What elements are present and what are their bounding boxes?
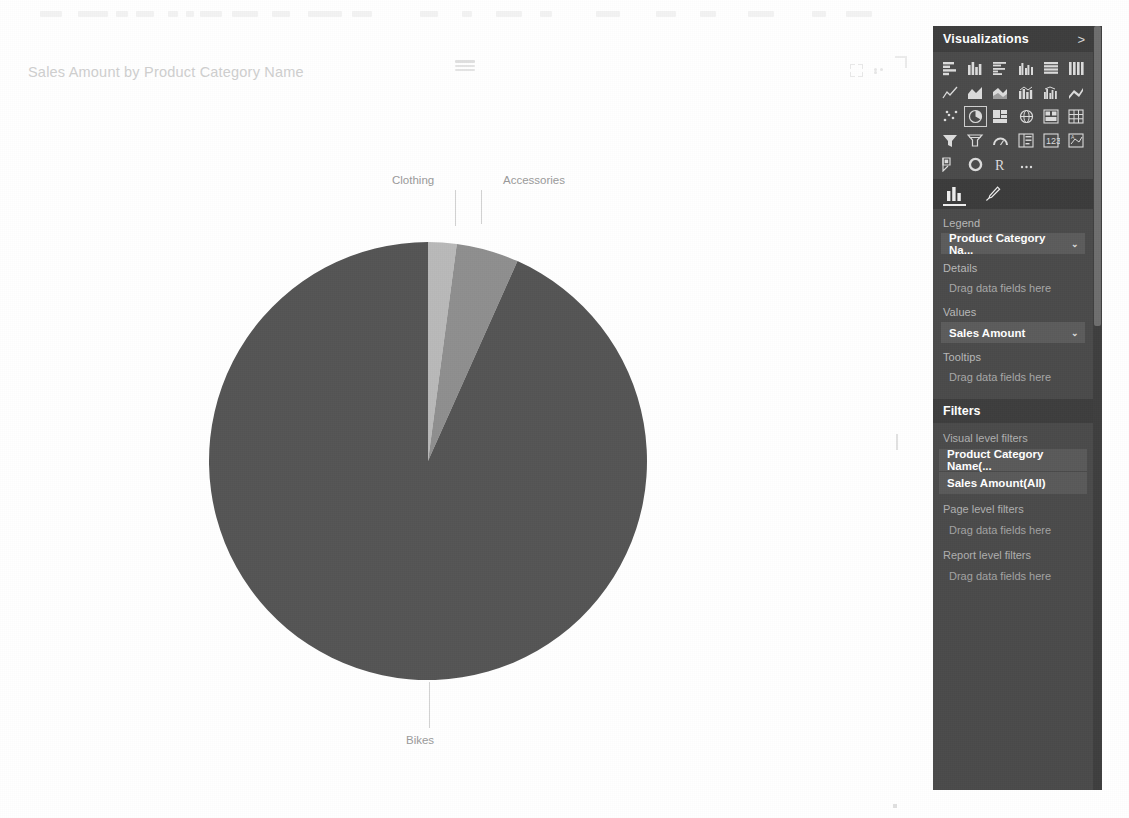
ribbon-chart-icon[interactable] <box>1065 82 1088 103</box>
area-chart-icon[interactable] <box>964 82 987 103</box>
visualizations-pane[interactable]: Visualizations > 123AR LegendProduct Cat… <box>933 26 1093 790</box>
gauge-icon[interactable] <box>964 130 987 151</box>
pie-label-accessories: Accessories <box>503 174 565 186</box>
stacked-area-chart-icon[interactable] <box>989 82 1012 103</box>
filter-group-label-report-level-filters: Report level filters <box>933 540 1093 566</box>
svg-text:123: 123 <box>1046 136 1060 146</box>
clustered-column-chart-icon[interactable] <box>1014 58 1037 79</box>
scrollbar-thumb[interactable] <box>1094 26 1101 326</box>
visualizations-pane-tabs[interactable] <box>933 179 1093 209</box>
r-script-visual-icon[interactable]: R <box>989 154 1012 175</box>
well-chip-text: Sales Amount <box>949 327 1025 339</box>
leader-line-bikes <box>429 682 430 728</box>
well-chip-values[interactable]: Sales Amount⌄ <box>941 322 1085 343</box>
pie-chart-visual[interactable]: Sales Amount by Product Category Name Cl… <box>0 24 909 784</box>
selection-handle-middle-right[interactable] <box>896 434 898 450</box>
card-icon[interactable] <box>1014 130 1037 151</box>
well-label-details: Details <box>933 254 1093 278</box>
line-clustered-column-chart-icon[interactable] <box>1040 82 1063 103</box>
stacked-bar-chart-icon[interactable] <box>939 58 962 79</box>
matrix-icon[interactable] <box>1065 106 1088 127</box>
chevron-right-icon[interactable]: > <box>1077 33 1085 46</box>
well-chip-text: Product Category Na... <box>949 232 1071 256</box>
well-chip-legend[interactable]: Product Category Na...⌄ <box>941 233 1085 254</box>
visualizations-pane-scrollbar[interactable] <box>1093 26 1102 790</box>
pie-label-bikes: Bikes <box>406 734 434 746</box>
filled-map-icon[interactable] <box>1040 106 1063 127</box>
leader-line-accessories <box>481 190 482 224</box>
scatter-chart-icon[interactable] <box>939 106 962 127</box>
paintbrush-icon <box>984 186 1001 202</box>
chevron-down-icon[interactable]: ⌄ <box>1071 328 1079 338</box>
fields-tab[interactable] <box>947 179 962 209</box>
funnel-icon[interactable] <box>939 130 962 151</box>
filters-pane-header: Filters <box>933 399 1093 423</box>
visualizations-pane-title: Visualizations <box>943 32 1029 46</box>
well-label-tooltips: Tooltips <box>933 343 1093 367</box>
filter-item[interactable]: Sales Amount(All) <box>939 472 1087 494</box>
pie-chart-icon[interactable] <box>964 106 987 127</box>
kpi-icon[interactable]: A <box>1065 130 1088 151</box>
filter-placeholder-report-level-filters[interactable]: Drag data fields here <box>941 566 1085 586</box>
field-wells: LegendProduct Category Na...⌄DetailsDrag… <box>933 209 1093 387</box>
visualization-type-grid[interactable]: 123AR <box>933 52 1093 179</box>
format-tab[interactable] <box>984 179 1001 209</box>
treemap-icon[interactable] <box>989 106 1012 127</box>
pie-chart-plot-area[interactable]: Clothing Accessories Bikes <box>0 24 909 784</box>
pie-label-clothing: Clothing <box>392 174 434 186</box>
filters-pane-title: Filters <box>943 404 981 418</box>
well-placeholder-tooltips[interactable]: Drag data fields here <box>941 367 1085 387</box>
well-placeholder-details[interactable]: Drag data fields here <box>941 278 1085 298</box>
filter-item[interactable]: Product Category Name(... <box>939 449 1087 471</box>
filter-group-label-page-level-filters: Page level filters <box>933 494 1093 520</box>
line-chart-icon[interactable] <box>939 82 962 103</box>
slicer-icon[interactable] <box>939 154 962 175</box>
bar-chart-icon <box>947 187 962 201</box>
line-stacked-column-chart-icon[interactable] <box>1014 82 1037 103</box>
filter-placeholder-page-level-filters[interactable]: Drag data fields here <box>941 520 1085 540</box>
multi-row-card-icon[interactable]: 123 <box>1040 130 1063 151</box>
well-label-values: Values <box>933 298 1093 322</box>
hundred-percent-stacked-column-icon[interactable] <box>1065 58 1088 79</box>
filters-pane-body[interactable]: Visual level filtersProduct Category Nam… <box>933 423 1093 586</box>
selection-handle-bottom-right[interactable] <box>893 804 897 808</box>
pie-slice-bikes[interactable] <box>209 242 647 680</box>
leader-line-clothing <box>455 190 456 226</box>
pie-chart-svg[interactable] <box>0 24 909 784</box>
well-label-legend: Legend <box>933 209 1093 233</box>
stacked-column-chart-icon[interactable] <box>964 58 987 79</box>
chevron-down-icon[interactable]: ⌄ <box>1071 239 1079 249</box>
clustered-bar-chart-icon[interactable] <box>989 58 1012 79</box>
hundred-percent-stacked-bar-icon[interactable] <box>1040 58 1063 79</box>
map-icon[interactable] <box>1014 106 1037 127</box>
visualizations-pane-header: Visualizations > <box>933 26 1093 52</box>
more-visuals-icon[interactable] <box>1014 154 1037 175</box>
filter-group-label-visual-level-filters: Visual level filters <box>933 423 1093 449</box>
svg-text:R: R <box>995 158 1005 172</box>
arc-gauge-icon[interactable] <box>989 130 1012 151</box>
donut-chart-icon[interactable] <box>964 154 987 175</box>
